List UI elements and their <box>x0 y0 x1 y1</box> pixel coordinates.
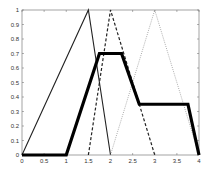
x-tick-label: 0 <box>20 158 24 164</box>
x-tick-label: 0.5 <box>40 158 49 164</box>
y-tick-label: 0.2 <box>11 123 20 129</box>
plot-area <box>22 10 199 155</box>
y-tick-label: 0.1 <box>11 138 20 144</box>
y-tick-label: 0.9 <box>11 22 20 28</box>
y-tick-label: 1 <box>16 7 20 13</box>
y-tick-label: 0.6 <box>11 65 20 71</box>
y-tick-label: 0 <box>16 152 20 158</box>
x-tick-label: 2 <box>109 158 113 164</box>
x-tick-label: 4 <box>197 158 201 164</box>
y-tick-label: 0.7 <box>11 51 20 57</box>
x-tick-label: 3.5 <box>173 158 182 164</box>
x-tick-label: 3 <box>153 158 157 164</box>
x-tick-label: 2.5 <box>128 158 137 164</box>
y-tick-label: 0.3 <box>11 109 20 115</box>
y-tick-label: 0.8 <box>11 36 20 42</box>
line-chart: 00.10.20.30.40.50.60.70.80.91 00.511.522… <box>0 0 212 171</box>
x-tick-label: 1 <box>65 158 69 164</box>
y-tick-label: 0.4 <box>11 94 20 100</box>
y-tick-label: 0.5 <box>11 80 20 86</box>
x-tick-label: 1.5 <box>84 158 93 164</box>
